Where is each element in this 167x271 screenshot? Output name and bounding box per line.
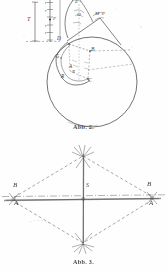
abb2-label-C: C: [88, 78, 92, 84]
abb2-label-P: P: [102, 11, 105, 16]
abb2-label-R1: R: [61, 74, 64, 79]
abb3-label-B-left: B: [13, 182, 17, 189]
abb3-label-A-right: A: [149, 200, 153, 207]
abb2-label-r4: r: [45, 31, 47, 36]
abb2-label-R2: R: [72, 70, 75, 75]
abb2-label-E: E: [75, 0, 78, 5]
abb2-label-T: T: [27, 16, 30, 22]
abb2-label-M: M: [95, 11, 99, 16]
abb2-label-O: O: [77, 12, 81, 17]
abb2-group: [24, 0, 142, 127]
scanned-page: T r r F r r D M P O E G B A C R R Abb. 2…: [0, 0, 167, 271]
figures-svg: [0, 0, 167, 271]
abb3-group: [2, 145, 165, 254]
abb2-label-r1: r: [45, 1, 47, 6]
abb2-label-B: B: [91, 47, 94, 53]
abb2-label-F: F: [53, 16, 56, 21]
abb2-label-r2: r: [45, 9, 47, 14]
abb2-scale: [26, 0, 60, 42]
abb2-label-D: D: [57, 36, 61, 41]
paper-specks: [24, 9, 142, 48]
abb3-label-A-left: A: [14, 200, 18, 207]
abb2-caption: Abb. 2.: [0, 123, 167, 130]
abb3-caption: Abb. 3.: [0, 258, 167, 265]
abb2-label-r3: r: [45, 24, 47, 29]
abb2-label-G: G: [55, 54, 59, 60]
abb3-label-B-right: B: [147, 181, 151, 188]
abb3-label-S: S: [86, 182, 89, 188]
abb2-upper-construction: [65, 0, 121, 45]
